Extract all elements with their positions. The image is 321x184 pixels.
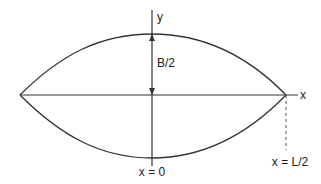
lower-boundary-curve bbox=[20, 95, 286, 158]
upper-boundary-curve bbox=[20, 34, 286, 95]
arrow-up-icon bbox=[149, 34, 155, 41]
x-axis-label: x bbox=[300, 88, 306, 102]
half-length-label: x = L/2 bbox=[272, 155, 309, 169]
y-axis-label: y bbox=[157, 10, 163, 24]
arrow-down-icon bbox=[149, 88, 155, 95]
origin-label: x = 0 bbox=[139, 165, 166, 179]
lens-shape-diagram: y B/2 x x = 0 x = L/2 bbox=[0, 0, 321, 184]
half-width-label: B/2 bbox=[157, 56, 175, 70]
